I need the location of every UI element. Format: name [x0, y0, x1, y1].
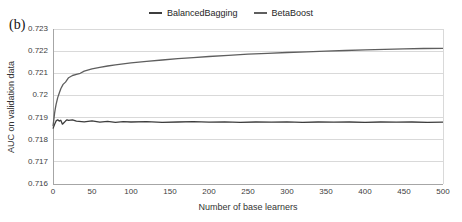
y-axis-title: AUC on validation data	[6, 61, 16, 153]
legend-item-balancedbagging: BalancedBagging	[149, 8, 238, 18]
x-tick-label: 250	[233, 187, 263, 197]
legend: BalancedBagging BetaBoost	[0, 8, 462, 18]
legend-label: BetaBoost	[272, 8, 314, 18]
y-tick-label: 0.723	[0, 24, 48, 34]
balancedbagging-line-swatch	[149, 12, 162, 14]
legend-label: BalancedBagging	[167, 8, 238, 18]
x-tick-label: 350	[311, 187, 341, 197]
x-tick-label: 50	[77, 187, 107, 197]
chart-plot-area	[53, 29, 443, 184]
x-tick-label: 400	[350, 187, 380, 197]
x-tick-label: 200	[194, 187, 224, 197]
series-line-betaboost	[53, 48, 443, 126]
x-tick-label: 450	[389, 187, 419, 197]
x-tick-label: 0	[38, 187, 68, 197]
x-tick-label: 100	[116, 187, 146, 197]
x-tick-label: 300	[272, 187, 302, 197]
x-axis-title: Number of base learners	[53, 202, 443, 212]
series-line-balancedbagging	[53, 120, 443, 129]
legend-item-betaboost: BetaBoost	[254, 8, 314, 18]
y-tick-label: 0.717	[0, 157, 48, 167]
x-tick-label: 150	[155, 187, 185, 197]
figure: (b) BalancedBagging BetaBoost 0.7160.717…	[0, 0, 462, 222]
y-tick-label: 0.722	[0, 46, 48, 56]
x-tick-label: 500	[428, 187, 458, 197]
betaboost-line-swatch	[254, 12, 267, 14]
